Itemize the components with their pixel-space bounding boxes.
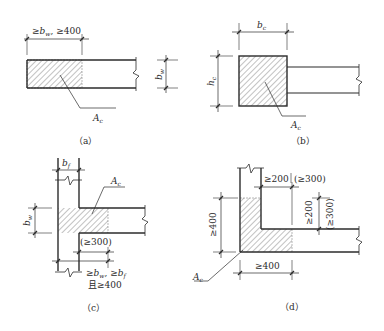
- dim-label-d-bottom: ≥400: [255, 261, 280, 271]
- caption-b: （b）: [291, 136, 315, 146]
- dim-label-a-top: ≥bw, ≥400: [32, 26, 81, 37]
- caption-d: （d）: [280, 302, 304, 312]
- break-line-icon: [55, 268, 82, 277]
- dim-label-d-left: ≥400: [208, 212, 218, 237]
- break-line-icon: [356, 64, 362, 96]
- break-line-icon: [237, 164, 264, 173]
- dim-label-a-right: bw: [154, 68, 165, 80]
- dim-label-b-top: bc: [257, 20, 267, 31]
- area-label-c: Ac: [110, 176, 122, 187]
- panel-b: bc hc Ac （b）: [206, 20, 362, 146]
- dim-label-d-top-alt: (≥300): [294, 174, 326, 184]
- dim-label-c-top: bf: [62, 158, 72, 170]
- hatched-area-c: [58, 208, 108, 233]
- dim-label-c-bottom-1: ≥bw, ≥bf: [86, 268, 127, 280]
- structural-wall-boundary-diagram: ≥bw, ≥400 bw Ac （a） bc hc Ac （b）: [0, 0, 384, 331]
- diagram-canvas: ≥bw, ≥400 bw Ac （a） bc hc Ac （b）: [0, 0, 384, 331]
- caption-a: （a）: [74, 136, 97, 146]
- hatched-area-d: [240, 198, 292, 252]
- break-line-icon: [142, 205, 148, 236]
- dim-label-c-left: bw: [22, 214, 33, 226]
- area-label-a: Ac: [92, 113, 104, 124]
- dim-label-c-inner: (≥300): [80, 237, 112, 247]
- dim-label-d-right-alt: (≥300): [325, 198, 335, 230]
- dim-label-b-left: hc: [206, 76, 217, 86]
- hatched-area-b: [239, 56, 287, 106]
- break-line-icon: [55, 176, 82, 185]
- panel-d: ≥200 (≥300) ≥200 (≥300) ≥400 ≥400 Ac （d）: [192, 164, 362, 312]
- caption-c: （c）: [82, 303, 105, 313]
- dim-label-d-right: ≥200: [304, 200, 314, 225]
- panel-c: bf bw Ac (≥300) ≥bw, ≥bf 且≥400 （c）: [22, 158, 148, 313]
- panel-a: ≥bw, ≥400 bw Ac （a）: [24, 26, 178, 146]
- area-label-d: Ac: [192, 272, 204, 283]
- dim-label-c-bottom-2: 且≥400: [88, 280, 122, 290]
- break-line-icon: [133, 57, 139, 91]
- dim-label-d-top: ≥200: [264, 174, 289, 184]
- area-label-b: Ac: [290, 120, 302, 131]
- break-line-icon: [356, 226, 362, 255]
- hatched-area-a: [27, 60, 82, 88]
